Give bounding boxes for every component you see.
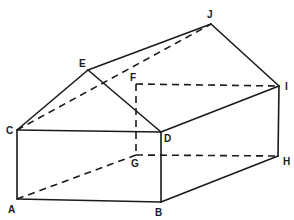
- edge-cj: [17, 24, 211, 130]
- vertex-label-d: D: [164, 133, 171, 144]
- vertex-label-a: A: [8, 204, 15, 215]
- vertex-label-g: G: [131, 158, 139, 169]
- vertex-label-b: B: [155, 207, 162, 218]
- edge-ej: [88, 24, 211, 70]
- edge-ce: [17, 70, 88, 130]
- edge-gh: [136, 155, 278, 156]
- edge-ji: [211, 24, 279, 86]
- vertex-label-f: F: [130, 72, 136, 83]
- edge-cd: [17, 130, 161, 132]
- edge-bh: [161, 156, 278, 202]
- edge-ih: [278, 86, 279, 156]
- edge-di: [161, 86, 279, 132]
- vertex-label-h: H: [283, 156, 290, 167]
- edge-ed: [88, 70, 161, 132]
- edge-ab: [17, 199, 161, 202]
- vertex-labels: ABCDEFGHIJ: [6, 9, 290, 218]
- visible-edges: [17, 24, 279, 202]
- edge-fi: [136, 84, 279, 86]
- vertex-label-c: C: [6, 125, 13, 136]
- edge-ga: [17, 155, 136, 199]
- vertex-label-j: J: [207, 9, 213, 20]
- prism-diagram: ABCDEFGHIJ: [0, 0, 294, 220]
- vertex-label-i: I: [285, 81, 288, 92]
- vertex-label-e: E: [79, 58, 86, 69]
